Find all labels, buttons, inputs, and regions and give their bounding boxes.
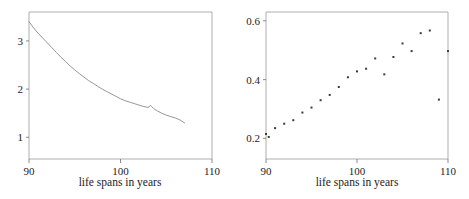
scatter-point — [392, 56, 394, 58]
right-x-axis-title: life spans in years — [316, 176, 399, 189]
scatter-point — [292, 119, 294, 121]
y-tick-label: 0.6 — [246, 15, 260, 27]
x-tick-label: 90 — [261, 165, 273, 177]
scatter-point — [283, 123, 285, 125]
scatter-point — [402, 42, 404, 44]
x-tick-label: 110 — [204, 165, 221, 177]
scatter-point — [383, 73, 385, 75]
scatter-point — [265, 133, 267, 135]
left-plot-svg: 123 90100110 life spans in years — [0, 0, 235, 199]
left-x-axis-title: life spans in years — [79, 176, 162, 189]
scatter-point — [374, 57, 376, 59]
right-plot-svg: 0.20.40.6 90100110 life spans in years — [234, 0, 469, 199]
left-x-tick-marks — [29, 159, 212, 163]
right-data-points — [265, 30, 449, 138]
scatter-point — [411, 50, 413, 52]
scatter-point — [311, 107, 313, 109]
scatter-point — [429, 30, 431, 32]
scatter-point — [365, 68, 367, 70]
figure-two-panel-plots: 123 90100110 life spans in years 0.20.40… — [0, 0, 469, 199]
scatter-point — [438, 99, 440, 101]
x-tick-label: 90 — [24, 165, 36, 177]
scatter-point — [347, 76, 349, 78]
left-y-tick-marks — [26, 41, 29, 137]
panel-right-scatter-chart: 0.20.40.6 90100110 life spans in years — [234, 0, 469, 199]
right-y-tick-marks — [263, 21, 266, 139]
x-tick-label: 110 — [440, 165, 457, 177]
y-tick-label: 1 — [18, 131, 24, 143]
left-plot-frame — [29, 12, 212, 159]
left-data-line — [29, 22, 185, 123]
right-y-tick-labels: 0.20.40.6 — [246, 15, 260, 145]
scatter-point — [338, 86, 340, 88]
panel-left-line-chart: 123 90100110 life spans in years — [0, 0, 235, 199]
right-x-tick-marks — [266, 159, 448, 163]
scatter-point — [329, 94, 331, 96]
scatter-point — [301, 112, 303, 114]
scatter-point — [320, 99, 322, 101]
y-tick-label: 0.4 — [246, 74, 260, 86]
scatter-point — [274, 127, 276, 129]
scatter-point — [420, 32, 422, 34]
scatter-point — [268, 136, 270, 138]
y-tick-label: 3 — [18, 35, 24, 47]
left-y-tick-labels: 123 — [18, 35, 24, 143]
y-tick-label: 0.2 — [246, 132, 260, 144]
scatter-point — [356, 70, 358, 72]
y-tick-label: 2 — [18, 83, 24, 95]
scatter-point — [447, 50, 449, 52]
